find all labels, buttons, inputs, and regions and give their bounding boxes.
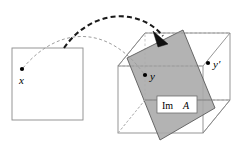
- figure-root: x y y′ Im A: [0, 0, 236, 145]
- point-x-dot: [20, 67, 24, 71]
- point-y-prime-label: y′: [212, 58, 221, 70]
- point-y-prime-dot: [206, 61, 210, 65]
- image-plane-label-im: Im: [162, 100, 173, 111]
- point-y-label: y: [149, 70, 155, 82]
- point-y-dot: [143, 73, 147, 77]
- figure-canvas: x y y′ Im A: [0, 0, 236, 145]
- image-plane-label: Im A: [157, 96, 197, 113]
- image-plane-label-operand: A: [182, 100, 190, 111]
- point-x-label: x: [18, 74, 24, 86]
